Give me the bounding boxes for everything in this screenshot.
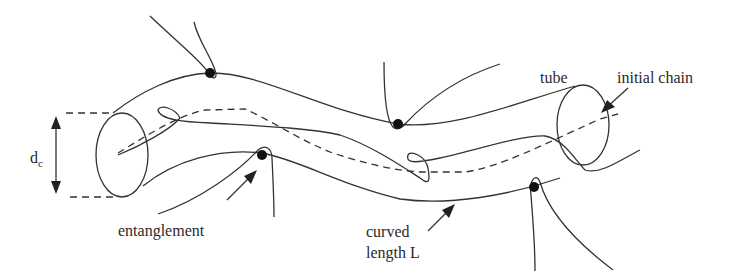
entangling-chain-4 bbox=[531, 178, 613, 271]
entangling-chain-3 bbox=[158, 147, 274, 217]
entangling-chain-1 bbox=[150, 16, 216, 78]
polymer-chain bbox=[118, 107, 640, 181]
tube-left-end bbox=[96, 113, 148, 197]
tube-model-diagram: tube initial chain entanglement curved l… bbox=[0, 0, 750, 279]
tube-right-end bbox=[557, 85, 609, 165]
diameter-label: dc bbox=[30, 149, 43, 169]
entanglement-point-2 bbox=[393, 119, 403, 129]
curved-length-label-line1: curved bbox=[366, 223, 410, 240]
tube-label: tube bbox=[540, 69, 568, 86]
entanglement-point-1 bbox=[205, 68, 215, 78]
diameter-arrow-down-icon bbox=[51, 181, 61, 194]
diameter-label-sub: c bbox=[38, 157, 43, 169]
diameter-label-main: d bbox=[30, 149, 38, 166]
entanglement-point-3 bbox=[257, 150, 267, 160]
entanglement-label: entanglement bbox=[118, 222, 205, 240]
curved-length-label-line2: length L bbox=[366, 244, 420, 262]
initial-chain-path bbox=[118, 109, 618, 172]
diameter-arrow-up-icon bbox=[51, 116, 61, 129]
initial-chain-label: initial chain bbox=[617, 69, 693, 86]
entanglement-point-4 bbox=[529, 182, 539, 192]
entangling-chain-2 bbox=[384, 62, 500, 129]
